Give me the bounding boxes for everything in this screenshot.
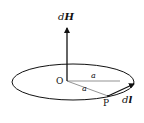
point-label: P (103, 99, 109, 108)
origin-label: O (56, 77, 63, 86)
radius-label-bottom: a (82, 85, 87, 93)
dl-vector: l (128, 94, 132, 105)
radius-label-top: a (91, 72, 96, 80)
dh-vector: H (64, 11, 73, 22)
point-p-dot (107, 95, 109, 97)
dh-label: dH (58, 12, 74, 22)
dl-label: dl (122, 95, 132, 105)
radius-line-to-p (67, 81, 108, 96)
current-loop-ellipse (12, 64, 134, 100)
magnetic-field-loop-diagram: dH O a a P dl (0, 0, 144, 123)
